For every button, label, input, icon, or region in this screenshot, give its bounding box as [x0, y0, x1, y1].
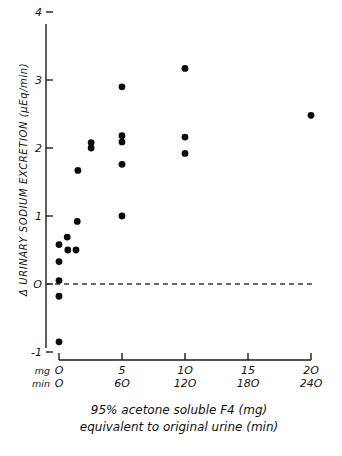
data-point	[64, 247, 71, 254]
data-point	[88, 145, 95, 152]
x-tick-label-min-1: 6O	[114, 377, 130, 390]
caption-line-1: equivalent to original urine (min)	[80, 420, 278, 434]
data-point	[64, 234, 71, 241]
data-point	[119, 83, 126, 90]
data-point	[56, 338, 63, 345]
data-point	[56, 258, 63, 265]
data-point	[119, 213, 126, 220]
data-point	[56, 241, 63, 248]
data-point	[73, 247, 80, 254]
data-point	[74, 218, 81, 225]
figure-scatter-plot: 4321O-1 OO56O1O12O1518O2O24O Δ URINARY S…	[0, 0, 342, 456]
x-tick-label-min-0: O	[55, 377, 64, 390]
plot-canvas: 4321O-1 OO56O1O12O1518O2O24O Δ URINARY S…	[0, 0, 342, 456]
x-tick-label-min-4: 24O	[300, 377, 323, 390]
data-point	[182, 65, 189, 72]
y-axis: 4321O-1	[31, 6, 53, 359]
x-axis: OO56O1O12O1518O2O24O	[55, 353, 323, 390]
caption-line-0: 95% acetone soluble F4 (mg)	[91, 403, 267, 417]
data-point	[182, 150, 189, 157]
x-tick-label-mg-3: 15	[241, 364, 255, 377]
y-axis-title-text: Δ URINARY SODIUM EXCRETION (µEq/min)	[18, 63, 29, 297]
x-tick-label-min-2: 12O	[174, 377, 197, 390]
x-tick-label-mg-1: 5	[119, 364, 126, 377]
data-point	[75, 167, 82, 174]
y-tick-label-4: O	[33, 278, 42, 291]
y-tick-label-0: 4	[35, 6, 42, 19]
y-axis-title: Δ URINARY SODIUM EXCRETION (µEq/min)	[18, 63, 29, 297]
x-axis-caption: 95% acetone soluble F4 (mg)equivalent to…	[80, 403, 278, 434]
x-tick-label-min-3: 18O	[237, 377, 260, 390]
y-tick-label-1: 3	[35, 74, 42, 87]
x-tick-label-mg-4: 2O	[303, 364, 319, 377]
y-tick-label-3: 1	[35, 210, 42, 223]
data-point	[119, 138, 126, 145]
data-point	[56, 293, 63, 300]
data-point	[56, 277, 63, 284]
x-axis-row-labels: mgmin	[32, 365, 50, 389]
data-point	[182, 134, 189, 141]
data-points	[56, 65, 315, 345]
x-row-label-min: min	[32, 378, 50, 389]
data-point	[308, 112, 315, 119]
data-point	[119, 132, 126, 139]
x-tick-label-mg-0: O	[55, 364, 64, 377]
x-tick-label-mg-2: 1O	[177, 364, 193, 377]
y-tick-label-2: 2	[35, 142, 42, 155]
x-row-label-mg: mg	[35, 365, 50, 376]
data-point	[119, 161, 126, 168]
y-tick-label-5: -1	[31, 346, 42, 359]
